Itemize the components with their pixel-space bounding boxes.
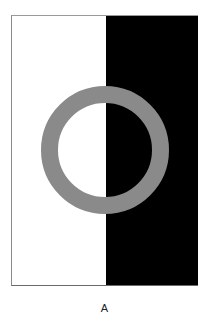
figure-label: A bbox=[0, 302, 209, 314]
gray-ring bbox=[0, 0, 209, 316]
